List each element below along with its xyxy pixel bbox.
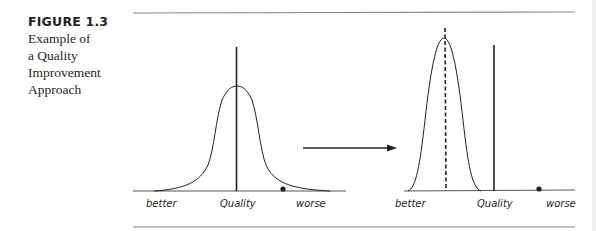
arrow-icon xyxy=(303,145,397,152)
right-mean-dashed-line xyxy=(445,28,446,191)
top-rule xyxy=(133,12,575,13)
left-label-worse: worse xyxy=(296,198,326,209)
right-panel: better Quality worse xyxy=(395,28,576,209)
right-baseline xyxy=(404,190,575,191)
left-label-better: better xyxy=(146,198,177,209)
right-marker-dot xyxy=(536,186,541,191)
left-panel: better Quality worse xyxy=(133,47,346,209)
right-label-worse: worse xyxy=(546,198,576,209)
right-label-quality: Quality xyxy=(477,198,514,209)
left-marker-dot xyxy=(280,186,285,191)
right-label-better: better xyxy=(395,198,426,209)
left-label-quality: Quality xyxy=(220,198,257,209)
page-edge xyxy=(592,0,596,231)
quality-diagram: better Quality worse better Quality wors… xyxy=(0,0,596,231)
left-bell-curve xyxy=(154,86,330,191)
